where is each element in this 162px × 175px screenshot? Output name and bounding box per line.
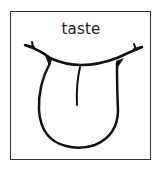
tongue-icon — [0, 0, 162, 175]
